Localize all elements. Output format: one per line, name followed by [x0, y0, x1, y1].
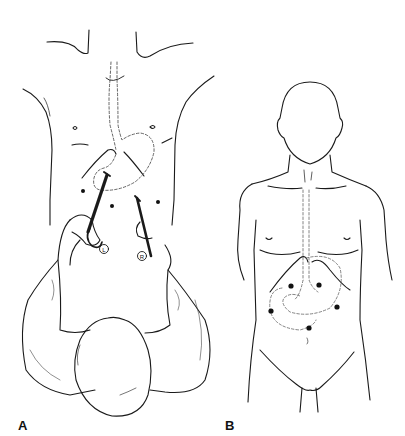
port-sites: [268, 282, 339, 330]
panel-a-drawing: [22, 30, 214, 416]
laparoscopy-port-diagram: L R A B: [0, 0, 405, 436]
panel-label-a: A: [18, 418, 27, 433]
instrument-right: [135, 196, 151, 261]
illustration-svg: L R: [0, 0, 405, 436]
panel-label-b: B: [225, 418, 234, 433]
panel-b-drawing: [238, 82, 392, 412]
marker-left-label: L: [102, 247, 106, 253]
marker-right-label: R: [140, 254, 145, 260]
